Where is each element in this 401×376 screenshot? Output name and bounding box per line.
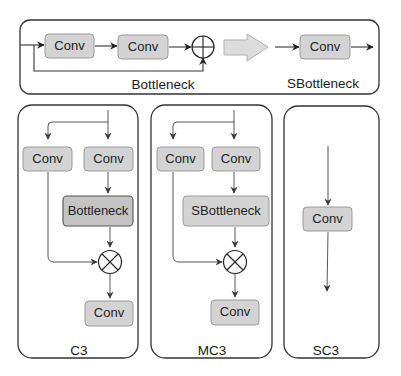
sc3-panel-frame — [284, 106, 379, 358]
times-circle-icon — [99, 251, 122, 274]
bottleneck-caption: Bottleneck — [131, 77, 194, 92]
c3-out-conv-box: Conv — [85, 301, 133, 326]
mc3-out-conv-label: Conv — [220, 304, 251, 319]
mc3-left-conv-box: Conv — [157, 147, 204, 171]
c3-left-conv-label: Conv — [32, 151, 63, 166]
c3-bottleneck-box: Bottleneck — [63, 196, 133, 226]
bottleneck-comparison-panel: Conv Conv Bottleneck Conv SBottleneck — [20, 20, 379, 94]
sc3-panel: Conv SC3 — [284, 106, 379, 358]
mc3-caption: MC3 — [198, 343, 227, 358]
sc3-conv-box: Conv — [303, 207, 352, 231]
bottleneck-conv2-box: Conv — [118, 35, 168, 59]
sbottleneck-conv-box: Conv — [300, 35, 350, 59]
bottleneck-conv2-label: Conv — [128, 39, 159, 54]
sc3-output-arrow — [327, 232, 328, 291]
mc3-sbottleneck-box: SBottleneck — [183, 196, 269, 226]
bottleneck-conv1-box: Conv — [45, 34, 94, 58]
sc3-conv-label: Conv — [312, 211, 343, 226]
mc3-panel: Conv Conv SBottleneck Conv MC3 — [151, 105, 272, 358]
plus-circle-icon — [192, 36, 214, 58]
c3-split-arrow — [48, 122, 108, 139]
sbottleneck-conv-label: Conv — [310, 39, 341, 54]
mc3-out-conv-box: Conv — [211, 300, 259, 325]
mc3-right-conv-box: Conv — [212, 147, 260, 171]
mc3-right-conv-label: Conv — [221, 151, 252, 166]
c3-right-conv-label: Conv — [93, 151, 124, 166]
hollow-right-arrow-icon — [224, 34, 268, 61]
diagram-canvas: Conv Conv Bottleneck Conv SBottleneck — [0, 0, 401, 376]
c3-caption: C3 — [70, 343, 87, 358]
mc3-left-conv-label: Conv — [165, 151, 196, 166]
times-circle-icon — [224, 251, 247, 274]
sbottleneck-caption: SBottleneck — [287, 76, 359, 91]
mc3-split-arrow — [173, 122, 234, 139]
c3-bottleneck-label: Bottleneck — [68, 203, 129, 218]
c3-out-conv-label: Conv — [94, 305, 125, 320]
sc3-caption: SC3 — [313, 343, 339, 358]
c3-left-conv-box: Conv — [23, 147, 72, 171]
bottleneck-conv1-label: Conv — [54, 38, 85, 53]
mc3-sbottleneck-label: SBottleneck — [191, 203, 261, 218]
c3-right-conv-box: Conv — [84, 147, 133, 171]
c3-panel: Conv Conv Bottleneck Conv C3 — [18, 105, 138, 358]
